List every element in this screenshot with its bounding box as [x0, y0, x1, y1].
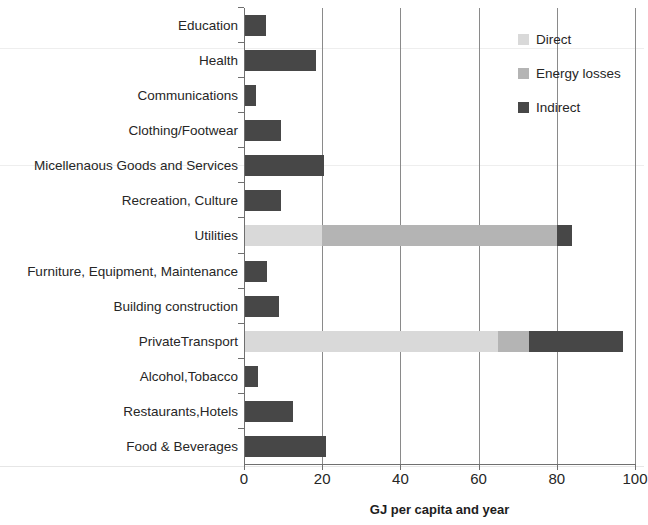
category-label: Alcohol,Tobacco	[0, 359, 238, 394]
category-label: Health	[0, 43, 238, 78]
stacked-bar	[244, 190, 281, 211]
bar-row	[244, 359, 635, 394]
bar-segment-indirect	[244, 296, 279, 317]
category-label: Clothing/Footwear	[0, 113, 238, 148]
stacked-bar	[244, 120, 281, 141]
bar-segment-indirect	[244, 120, 281, 141]
bar-segment-indirect	[244, 436, 326, 457]
bar-row	[244, 148, 635, 183]
bar-segment-indirect	[244, 15, 266, 36]
y-axis-line	[244, 8, 245, 464]
stacked-bar	[244, 85, 256, 106]
category-label: Restaurants,Hotels	[0, 394, 238, 429]
bar-segment-indirect	[244, 50, 316, 71]
bar-row	[244, 183, 635, 218]
bar-segment-indirect	[244, 85, 256, 106]
legend-label: Energy losses	[536, 66, 621, 81]
legend-label: Indirect	[536, 100, 580, 115]
x-axis-line	[244, 464, 635, 465]
stacked-bar	[244, 155, 324, 176]
stacked-bar	[244, 50, 316, 71]
legend-item: Indirect	[518, 90, 638, 124]
stacked-bar	[244, 401, 293, 422]
category-label: Utilities	[0, 218, 238, 253]
y-axis-category-labels: EducationHealthCommunicationsClothing/Fo…	[0, 8, 238, 464]
bar-segment-direct	[244, 331, 498, 352]
bar-row	[244, 254, 635, 289]
category-label: Education	[0, 8, 238, 43]
bar-segment-indirect	[244, 401, 293, 422]
bar-segment-energy-losses	[322, 225, 557, 246]
x-axis-tick-label: 20	[314, 470, 331, 487]
category-label: Recreation, Culture	[0, 183, 238, 218]
bar-segment-indirect	[244, 155, 324, 176]
bar-segment-indirect	[529, 331, 623, 352]
category-label: Micellenaous Goods and Services	[0, 148, 238, 183]
x-axis-tick-label: 0	[240, 470, 248, 487]
bar-segment-indirect	[557, 225, 573, 246]
bar-row	[244, 218, 635, 253]
bar-row	[244, 394, 635, 429]
x-axis-title: GJ per capita and year	[244, 502, 635, 517]
bar-segment-direct	[244, 225, 322, 246]
legend-swatch-icon	[518, 68, 529, 79]
x-axis-tick-label: 60	[470, 470, 487, 487]
chart-legend: DirectEnergy lossesIndirect	[518, 22, 638, 124]
legend-item: Energy losses	[518, 56, 638, 90]
stacked-bar	[244, 436, 326, 457]
category-label: PrivateTransport	[0, 324, 238, 359]
bar-segment-energy-losses	[498, 331, 529, 352]
stacked-bar	[244, 261, 267, 282]
x-axis-tick-label: 100	[622, 470, 647, 487]
category-label: Furniture, Equipment, Maintenance	[0, 254, 238, 289]
stacked-bar	[244, 225, 572, 246]
stacked-bar	[244, 331, 623, 352]
bar-segment-indirect	[244, 261, 267, 282]
bar-row	[244, 324, 635, 359]
legend-swatch-icon	[518, 34, 529, 45]
x-axis-tick-label: 40	[392, 470, 409, 487]
x-axis-tick-label: 80	[548, 470, 565, 487]
legend-label: Direct	[536, 32, 571, 47]
category-label: Communications	[0, 78, 238, 113]
bar-row	[244, 429, 635, 464]
category-label: Food & Beverages	[0, 429, 238, 464]
bar-segment-indirect	[244, 366, 258, 387]
bar-row	[244, 289, 635, 324]
category-label: Building construction	[0, 289, 238, 324]
stacked-bar	[244, 366, 258, 387]
bar-segment-indirect	[244, 190, 281, 211]
stacked-bar	[244, 15, 266, 36]
stacked-bar	[244, 296, 279, 317]
legend-item: Direct	[518, 22, 638, 56]
legend-swatch-icon	[518, 102, 529, 113]
